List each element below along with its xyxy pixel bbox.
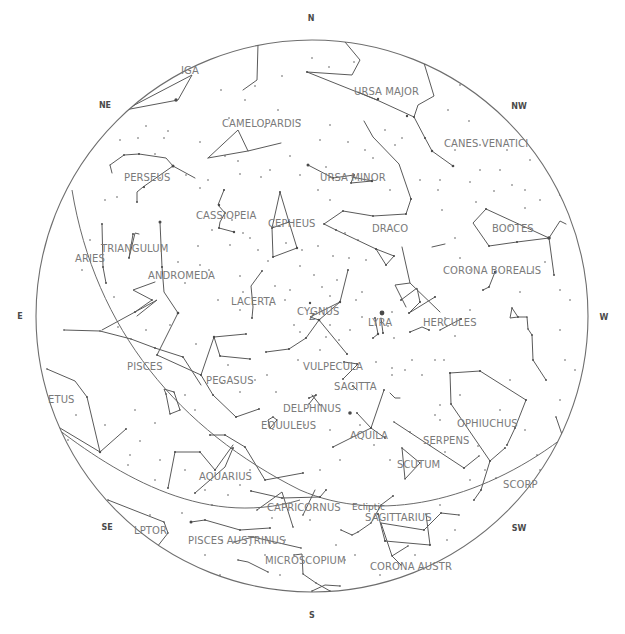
star[interactable]	[489, 460, 491, 462]
star[interactable]	[267, 571, 269, 573]
star[interactable]	[145, 125, 147, 127]
star[interactable]	[391, 555, 393, 557]
star[interactable]	[107, 499, 109, 501]
star[interactable]	[348, 411, 352, 415]
star[interactable]	[277, 109, 279, 111]
star[interactable]	[185, 174, 187, 176]
star[interactable]	[299, 174, 301, 176]
star[interactable]	[204, 519, 206, 521]
star[interactable]	[302, 514, 304, 516]
star[interactable]	[434, 296, 436, 298]
star[interactable]	[218, 227, 220, 229]
star[interactable]	[329, 324, 331, 326]
star[interactable]	[258, 408, 260, 410]
star[interactable]	[335, 544, 337, 546]
star[interactable]	[288, 348, 290, 350]
star[interactable]	[404, 478, 406, 480]
star[interactable]	[207, 179, 209, 181]
star[interactable]	[190, 521, 193, 524]
star[interactable]	[370, 427, 372, 429]
star[interactable]	[297, 359, 299, 361]
star[interactable]	[459, 394, 461, 396]
constellation-label-corona-borealis[interactable]: CORONA BOREALIS	[443, 265, 541, 276]
star[interactable]	[300, 547, 302, 549]
star[interactable]	[249, 237, 251, 239]
star[interactable]	[309, 519, 311, 521]
constellation-label-cassiopeia[interactable]: CASSIOPEIA	[196, 210, 257, 221]
star[interactable]	[154, 422, 156, 424]
star[interactable]	[447, 109, 449, 111]
star[interactable]	[239, 275, 241, 277]
star[interactable]	[63, 329, 65, 331]
star[interactable]	[469, 309, 471, 311]
star[interactable]	[344, 232, 346, 234]
star[interactable]	[130, 338, 132, 340]
star[interactable]	[354, 554, 356, 556]
star[interactable]	[249, 358, 251, 360]
star[interactable]	[134, 311, 136, 313]
star[interactable]	[475, 201, 477, 203]
star[interactable]	[211, 504, 213, 506]
star[interactable]	[315, 394, 317, 396]
star[interactable]	[301, 249, 303, 251]
star[interactable]	[479, 169, 481, 171]
star[interactable]	[517, 316, 519, 318]
star[interactable]	[348, 257, 350, 259]
star[interactable]	[439, 504, 441, 506]
constellation-label-lacerta[interactable]: LACERTA	[231, 296, 276, 307]
star[interactable]	[169, 413, 171, 415]
star[interactable]	[482, 289, 484, 291]
star[interactable]	[329, 199, 331, 201]
star[interactable]	[410, 198, 412, 200]
star[interactable]	[81, 269, 83, 271]
star[interactable]	[511, 184, 513, 186]
constellation-label-scorpius[interactable]: SCORP	[503, 479, 538, 490]
star[interactable]	[325, 489, 327, 491]
star[interactable]	[342, 378, 344, 380]
star[interactable]	[357, 531, 359, 533]
star[interactable]	[353, 61, 355, 63]
star[interactable]	[539, 129, 541, 131]
star[interactable]	[245, 333, 247, 335]
star[interactable]	[134, 409, 136, 411]
star[interactable]	[401, 447, 403, 449]
star[interactable]	[139, 440, 141, 442]
star[interactable]	[559, 289, 561, 291]
star[interactable]	[239, 391, 241, 393]
star[interactable]	[355, 299, 357, 301]
star[interactable]	[544, 261, 546, 263]
star[interactable]	[145, 329, 147, 331]
star[interactable]	[138, 153, 140, 155]
star[interactable]	[172, 165, 175, 168]
star[interactable]	[319, 139, 321, 141]
star[interactable]	[237, 559, 239, 561]
star[interactable]	[339, 459, 341, 461]
constellation-label-corona-australis[interactable]: CORONA AUSTR	[370, 561, 452, 572]
constellation-label-perseus[interactable]: PERSEUS	[124, 172, 170, 183]
star[interactable]	[143, 186, 145, 188]
constellation-label-serpens[interactable]: SERPENS	[423, 435, 470, 446]
star[interactable]	[224, 155, 226, 157]
star[interactable]	[440, 512, 442, 514]
star[interactable]	[156, 546, 158, 548]
star[interactable]	[389, 459, 391, 461]
star[interactable]	[232, 447, 234, 449]
star[interactable]	[516, 241, 518, 243]
constellation-label-pegasus[interactable]: PEGASUS	[206, 375, 254, 386]
star[interactable]	[235, 416, 237, 418]
star[interactable]	[209, 434, 211, 436]
constellation-label-triangulum[interactable]: TRIANGULUM	[100, 243, 168, 254]
star[interactable]	[136, 201, 138, 203]
star[interactable]	[265, 351, 267, 353]
star[interactable]	[167, 130, 169, 132]
constellation-label-draco[interactable]: DRACO	[372, 223, 408, 234]
star[interactable]	[393, 337, 395, 339]
constellation-label-scutum[interactable]: SCUTUM	[397, 459, 440, 470]
star[interactable]	[329, 295, 331, 297]
star[interactable]	[223, 189, 225, 191]
star[interactable]	[321, 286, 323, 288]
star[interactable]	[509, 379, 511, 381]
star[interactable]	[181, 512, 183, 514]
star[interactable]	[506, 149, 508, 151]
star[interactable]	[446, 539, 448, 541]
